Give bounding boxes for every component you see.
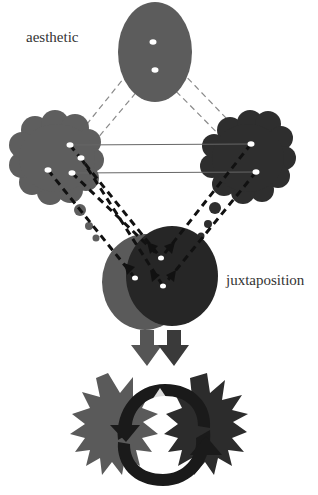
label-juxtaposition: juxtaposition bbox=[226, 272, 304, 289]
right-cloud bbox=[200, 110, 296, 204]
down-arrow-right bbox=[158, 330, 189, 366]
top-ellipse bbox=[118, 2, 192, 102]
diagram-canvas bbox=[0, 0, 318, 495]
down-arrows bbox=[131, 330, 189, 366]
label-aesthetic: aesthetic bbox=[26, 29, 78, 46]
down-arrow-left bbox=[131, 330, 162, 366]
left-trail-blobs bbox=[74, 204, 100, 242]
starburst-left bbox=[70, 373, 158, 475]
